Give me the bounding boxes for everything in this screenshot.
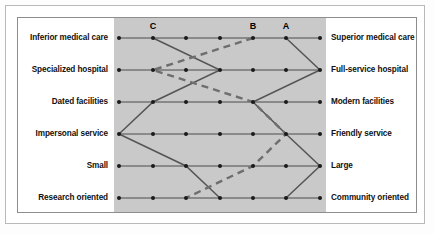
scale-point-dot (117, 132, 121, 136)
left-label-1: Specialized hospital (32, 66, 108, 74)
scale-point-dot (184, 196, 188, 200)
scale-point-dot (251, 68, 255, 72)
right-label-0: Superior medical care (331, 34, 414, 42)
scale-point-dot (284, 68, 288, 72)
column-header-a: A (283, 22, 290, 31)
figure-root: CBA Inferior medical careSpecialized hos… (0, 0, 434, 234)
scale-point-dot (318, 196, 322, 200)
scale-point-dot (251, 36, 255, 40)
scale-point-dot (151, 36, 155, 40)
grid-dots (117, 36, 322, 200)
left-label-4: Small (87, 162, 108, 170)
series-line-C[interactable] (153, 38, 286, 198)
scale-point-dot (251, 132, 255, 136)
scale-point-dot (251, 100, 255, 104)
scale-point-dot (218, 164, 222, 168)
left-label-3: Impersonal service (36, 130, 108, 138)
scale-point-dot (218, 132, 222, 136)
column-header-c: C (150, 22, 157, 31)
scale-point-dot (318, 68, 322, 72)
scale-point-dot (284, 100, 288, 104)
scale-point-dot (251, 164, 255, 168)
scale-point-dot (251, 196, 255, 200)
scale-point-dot (151, 68, 155, 72)
scale-point-dot (284, 36, 288, 40)
grid-rows (119, 38, 320, 198)
left-label-5: Research oriented (38, 194, 108, 202)
scale-point-dot (218, 100, 222, 104)
scale-point-dot (117, 164, 121, 168)
column-header-b: B (250, 22, 257, 31)
scale-point-dot (184, 100, 188, 104)
scale-point-dot (151, 164, 155, 168)
scale-point-dot (117, 100, 121, 104)
series-line-A[interactable] (253, 38, 320, 198)
scale-point-dot (284, 132, 288, 136)
series-line-B[interactable] (119, 38, 220, 198)
scale-point-dot (218, 196, 222, 200)
scale-point-dot (151, 132, 155, 136)
scale-point-dot (318, 100, 322, 104)
scale-point-dot (218, 68, 222, 72)
scale-point-dot (184, 36, 188, 40)
scale-point-dot (151, 100, 155, 104)
series-lines (119, 38, 320, 198)
left-label-0: Inferior medical care (30, 34, 108, 42)
scale-point-dot (284, 164, 288, 168)
right-label-2: Modern facilities (331, 98, 394, 106)
scale-point-dot (184, 68, 188, 72)
scale-point-dot (318, 132, 322, 136)
scale-point-dot (318, 36, 322, 40)
scale-point-dot (218, 36, 222, 40)
right-label-4: Large (331, 162, 353, 170)
scale-point-dot (151, 196, 155, 200)
scale-point-dot (184, 164, 188, 168)
right-label-3: Friendly service (331, 130, 392, 138)
scale-point-dot (117, 196, 121, 200)
scale-point-dot (318, 164, 322, 168)
scale-point-dot (184, 132, 188, 136)
scale-point-dot (284, 196, 288, 200)
left-label-2: Dated facilities (52, 98, 108, 106)
scale-point-dot (117, 36, 121, 40)
scale-point-dot (117, 68, 121, 72)
right-label-5: Community oriented (331, 194, 409, 202)
right-label-1: Full-service hospital (331, 66, 408, 74)
